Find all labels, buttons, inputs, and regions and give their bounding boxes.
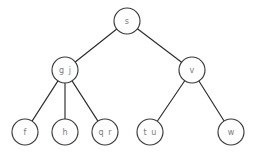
- tree-edge: [72, 81, 98, 121]
- tree-diagram: sg jvfhq rt uw: [0, 0, 257, 155]
- tree-node[interactable]: s: [114, 8, 140, 34]
- node-circle[interactable]: [137, 119, 163, 145]
- node-circle[interactable]: [52, 57, 78, 83]
- node-layer: sg jvfhq rt uw: [12, 8, 244, 145]
- tree-node[interactable]: h: [52, 119, 78, 145]
- node-circle[interactable]: [218, 119, 244, 145]
- tree-node[interactable]: t u: [137, 119, 163, 145]
- tree-node[interactable]: q r: [92, 119, 118, 145]
- tree-node[interactable]: f: [12, 119, 38, 145]
- node-circle[interactable]: [179, 57, 205, 83]
- tree-node[interactable]: v: [179, 57, 205, 83]
- node-circle[interactable]: [12, 119, 38, 145]
- tree-edge: [157, 81, 184, 121]
- node-circle[interactable]: [92, 119, 118, 145]
- tree-edge: [75, 29, 117, 62]
- tree-edge: [32, 81, 58, 121]
- tree-node[interactable]: g j: [52, 57, 78, 83]
- tree-edge: [199, 81, 224, 121]
- tree-edge: [137, 29, 181, 62]
- node-circle[interactable]: [114, 8, 140, 34]
- tree-node[interactable]: w: [218, 119, 244, 145]
- node-circle[interactable]: [52, 119, 78, 145]
